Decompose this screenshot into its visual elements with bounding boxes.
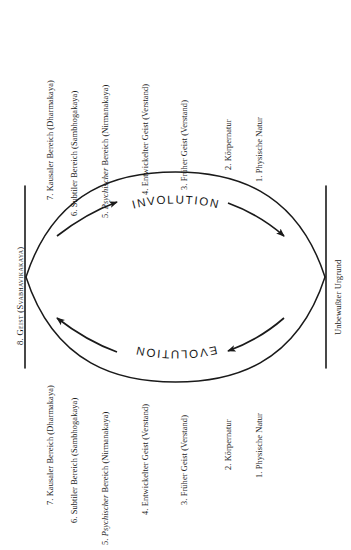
level-label-bottom-3: 3. Früher Geist (Verstand) (181, 415, 189, 505)
level-label-top-7: 7. Kausaler Bereich (Dharmakaya) (47, 80, 55, 200)
level-label-bottom-7: 7. Kausaler Bereich (Dharmakaya) (47, 385, 55, 505)
level-label-top-1: 1. Physische Natur (256, 117, 264, 182)
level-5-bottom-italic: Psychischer (101, 495, 110, 537)
level-5-top-italic: Psychischer (101, 168, 110, 210)
level-5-top-suffix: Bereich (Nirmanakaya) (101, 85, 110, 168)
level-5-bottom-suffix: Bereich (Nirmanakaya) (101, 412, 110, 495)
level-label-bottom-6: 6. Subtiler Bereich (Sambhogakaya) (71, 398, 79, 523)
right-bracket-label: Unbewußter Urgrund (334, 260, 343, 335)
level-label-bottom-1: 1. Physische Natur (256, 413, 264, 478)
left-bracket-label: 8. Geist (Svabhavikakaya) (16, 246, 25, 345)
involution-label: INVOLUTION (130, 192, 221, 210)
level-label-top-2: 2. Körpernatur (225, 119, 233, 170)
evolution-arrow-left (57, 318, 117, 352)
level-label-bottom-2: 2. Körpernatur (225, 419, 233, 470)
lens-lower-arc (26, 277, 325, 382)
level-label-top-6: 6. Subtiler Bereich (Sambhogakaya) (71, 91, 79, 216)
level-label-top-4: 4. Entwickelter Geist (Verstand) (142, 84, 150, 195)
level-label-bottom-5: 5. Psychischer Bereich (Nirmanakaya) (102, 412, 110, 545)
level-label-top-5: 5. Psychischer Bereich (Nirmanakaya) (102, 85, 110, 218)
level-label-top-3: 3. Früher Geist (Verstand) (181, 100, 189, 190)
level-5-bottom-prefix: 5. (101, 536, 110, 545)
level-label-bottom-4: 4. Entwickelter Geist (Verstand) (142, 404, 150, 515)
evolution-label: EVOLUTION (134, 344, 219, 361)
level-5-top-prefix: 5. (101, 209, 110, 218)
evolution-arrow-right (228, 318, 284, 351)
involution-arrow-right (228, 203, 284, 236)
diagram-canvas: INVOLUTION EVOLUTION 8. Geist (Svabhavik… (0, 0, 351, 550)
